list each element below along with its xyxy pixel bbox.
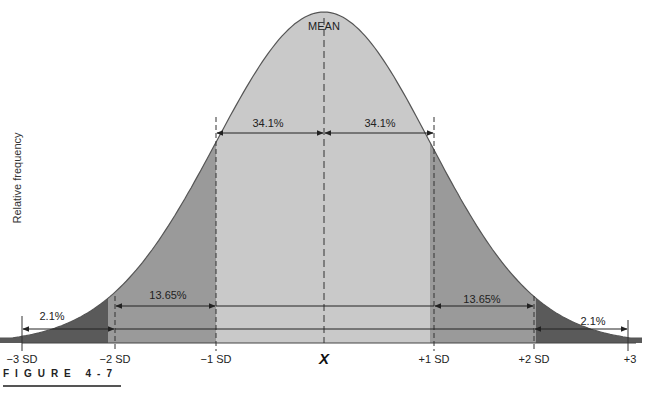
tick-label-plus3: +3: [624, 353, 637, 365]
pct-3sd-right: 2.1%: [580, 315, 605, 327]
normal-distribution-figure: MEAN 34.1% 34.1% 13.65% 13.65% 2.1% 2.1%…: [0, 0, 646, 393]
pct-2sd-left: 13.65%: [149, 289, 187, 301]
caption-underline: [3, 385, 121, 387]
tick-label-minus2: −2 SD: [100, 353, 131, 365]
figure-caption: FIGURE 4-7: [3, 368, 118, 379]
pct-1sd-left: 34.1%: [252, 117, 283, 129]
pct-3sd-left: 2.1%: [39, 310, 64, 322]
tick-label-plus1: +1 SD: [419, 353, 450, 365]
pct-1sd-right: 34.1%: [364, 117, 395, 129]
y-axis-label: Relative frequency: [11, 123, 23, 233]
tick-label-minus1: −1 SD: [201, 353, 232, 365]
mean-label: MEAN: [308, 20, 340, 32]
pct-2sd-right: 13.65%: [463, 293, 501, 305]
tick-label-plus2: +2 SD: [519, 353, 550, 365]
band-minus1-to-plus1: [216, 12, 430, 343]
tick-label-minus3: −3 SD: [7, 353, 38, 365]
mean-symbol: X: [318, 350, 330, 367]
